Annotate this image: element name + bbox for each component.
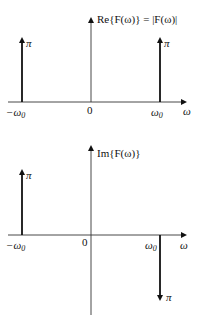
bottom-x-axis-label: ω (180, 240, 188, 251)
bottom-axis-label: Im{F(ω)} (97, 148, 140, 159)
bottom-origin-label: 0 (82, 237, 88, 248)
top-pos-omega0-label: ω0 (151, 107, 163, 120)
bottom-neg-omega0-text: −ω (6, 239, 21, 251)
bottom-pos-omega0-sub: 0 (153, 244, 157, 253)
bottom-pos-impulse-height: π (166, 292, 172, 303)
top-plot (8, 20, 184, 102)
bottom-pos-omega0-text: ω (145, 239, 153, 251)
top-neg-omega0-text: −ω (6, 106, 21, 118)
diagram-canvas (0, 0, 198, 335)
bottom-plot (8, 148, 184, 315)
top-origin-label: 0 (87, 105, 93, 116)
top-neg-omega0-sub: 0 (21, 111, 25, 120)
top-neg-impulse-height: π (26, 38, 32, 49)
top-neg-omega0-label: −ω0 (6, 107, 25, 120)
top-pos-omega0-sub: 0 (159, 111, 163, 120)
bottom-neg-omega0-sub: 0 (21, 244, 25, 253)
top-x-axis-label: ω (183, 106, 191, 117)
top-pos-impulse-height: π (164, 38, 170, 49)
bottom-neg-omega0-label: −ω0 (6, 240, 25, 253)
top-pos-omega0-text: ω (151, 106, 159, 118)
top-axis-label: Re{F(ω)} = |F(ω)| (97, 14, 177, 25)
bottom-neg-impulse-height: π (26, 170, 32, 181)
bottom-pos-omega0-label: ω0 (145, 240, 157, 253)
